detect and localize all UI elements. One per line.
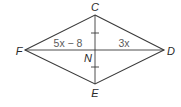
rhombus-outline: [25, 15, 164, 84]
vertex-label-D: D: [167, 45, 175, 57]
vertex-label-C: C: [91, 1, 99, 13]
rhombus-diagram: C E F D N 5x − 8 3x: [0, 0, 181, 107]
segment-label-ND: 3x: [118, 37, 130, 49]
intersection-label-N: N: [84, 52, 92, 64]
vertex-label-F: F: [16, 45, 24, 57]
segment-label-FN: 5x − 8: [54, 37, 83, 49]
vertex-label-E: E: [91, 87, 99, 99]
